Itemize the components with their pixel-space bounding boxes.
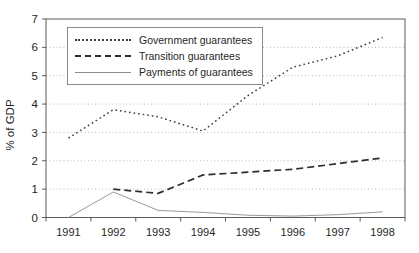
- legend-item-government-guarantees: Government guarantees: [75, 32, 253, 48]
- x-tick-label: 1992: [101, 226, 125, 238]
- y-tick-label: 5: [32, 70, 38, 82]
- y-tick-label: 3: [32, 127, 38, 139]
- series-line-payments-of-guarantees: [68, 192, 382, 218]
- x-tick-label: 1998: [370, 226, 394, 238]
- dotted-line-sample-icon: [75, 39, 131, 41]
- x-tick-label: 1993: [146, 226, 170, 238]
- y-tick-label: 7: [32, 13, 38, 25]
- series-line-transition-guarantees: [113, 158, 382, 193]
- solid-line-sample-icon: [75, 72, 131, 73]
- legend-label-transition-guarantees: Transition guarantees: [139, 50, 240, 62]
- y-tick-label: 1: [32, 183, 38, 195]
- x-tick-label: 1995: [236, 226, 260, 238]
- legend-label-payments-of-guarantees: Payments of guarantees: [139, 66, 253, 78]
- y-tick-label: 4: [32, 98, 39, 110]
- y-tick-label: 6: [32, 41, 38, 53]
- legend-label-government-guarantees: Government guarantees: [139, 34, 252, 46]
- dashed-line-sample-icon: [75, 55, 131, 57]
- y-tick-label: 2: [32, 155, 38, 167]
- legend: Government guarantees Transition guarant…: [67, 27, 263, 85]
- legend-item-transition-guarantees: Transition guarantees: [75, 48, 253, 64]
- x-tick-label: 1997: [325, 226, 349, 238]
- y-axis-title: % of GDP: [4, 99, 16, 150]
- y-tick-label: 0: [32, 212, 38, 224]
- x-tick-label: 1996: [281, 226, 305, 238]
- guarantees-line-chart: 0123456719911992199319941995199619971998…: [0, 0, 419, 253]
- legend-item-payments-of-guarantees: Payments of guarantees: [75, 64, 253, 80]
- x-tick-label: 1991: [56, 226, 80, 238]
- x-tick-label: 1994: [191, 226, 215, 238]
